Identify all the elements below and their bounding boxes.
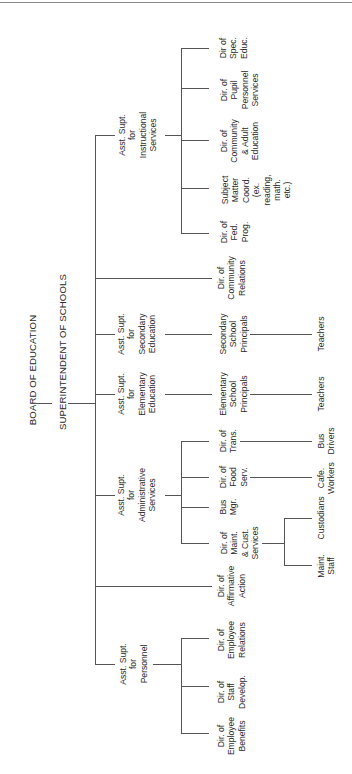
administrative-spine [181, 441, 182, 543]
label-line: Mgr. [228, 499, 238, 516]
label-line: Dir. of [216, 621, 226, 659]
label-line: Maint. [316, 554, 326, 577]
connector [165, 135, 181, 136]
maint-spine [284, 518, 285, 565]
connector [95, 495, 115, 496]
superintendent: SUPERINTENDENT OF SCHOOLS [58, 274, 68, 430]
label-line: Instructional [138, 112, 148, 158]
label-line: for [127, 468, 137, 522]
connector [181, 88, 209, 89]
label-line: math. [272, 174, 282, 205]
label-line: Teachers [316, 317, 326, 352]
connector [181, 140, 209, 141]
label-line: Personnel [240, 71, 250, 110]
connector [181, 233, 209, 234]
connector-superintendent-spine [68, 403, 95, 404]
connector [165, 334, 212, 335]
label-line: Personnel [139, 643, 149, 685]
label-line: Benefits [237, 717, 247, 755]
label-line: Dir. of [219, 119, 229, 162]
label-line: Secondary [218, 313, 228, 354]
subject-matter-coord: Subject Matter Coord. (ex. reading, math… [220, 174, 293, 205]
board-of-education: BOARD OF EDUCATION [28, 315, 38, 425]
connector [181, 48, 209, 49]
label-line: Dir. of [216, 566, 226, 606]
label-line: Dir. of [216, 717, 226, 755]
connector [240, 441, 312, 442]
label-line: for [128, 112, 138, 158]
label-line: Dir. of [218, 429, 228, 453]
label-line: Asst. Supt. [116, 468, 126, 522]
connector [250, 477, 312, 478]
label-line: Asst. Supt. [116, 372, 126, 415]
connector [95, 394, 115, 395]
label-line: Dir. of [219, 527, 229, 560]
label-line: Employee [227, 621, 237, 659]
label-line: Custodians [316, 497, 326, 540]
dir-community-adult-education: Dir. of Community & Adult Education [219, 119, 261, 162]
connector [165, 495, 181, 496]
label-line: for [127, 313, 137, 355]
label-line: Services [147, 468, 157, 522]
label-line: Staff [326, 554, 336, 577]
label-line: Community [227, 256, 237, 299]
label-line: Administrative [137, 468, 147, 522]
connector [95, 586, 212, 587]
label-line: Drivers [326, 427, 336, 454]
connector [284, 518, 312, 519]
asst-supt-secondary: Asst. Supt. for Secondary Education [116, 313, 158, 355]
board-label: BOARD OF EDUCATION [28, 315, 38, 425]
connector [181, 507, 209, 508]
label-line: Asst. Supt. [118, 643, 128, 685]
label-line: Principals [239, 313, 249, 354]
dir-food-serv: Dir. of Food Serv. [218, 466, 249, 488]
dir-affirmative-action: Dir. of Affirmative Action [216, 566, 247, 606]
label-line: Pupil [230, 71, 240, 110]
label-line: Relations [237, 256, 247, 299]
connector [95, 334, 115, 335]
connector [181, 441, 209, 442]
dir-trans: Dir. of Trans. [218, 429, 239, 453]
label-line: Principals [239, 372, 249, 415]
label-line: Trans. [228, 429, 238, 453]
label-line: Services [148, 112, 158, 158]
secondary-teachers: Teachers [316, 317, 326, 352]
label-line: & Cust. [240, 527, 250, 560]
label-line: Secondary [137, 313, 147, 355]
label-line: Relations [237, 621, 247, 659]
dir-employee-benefits: Dir. of Employee Benefits [216, 717, 247, 755]
label-line: etc.) [282, 174, 292, 205]
label-line: Food [229, 466, 239, 488]
label-line: Teachers [316, 377, 326, 412]
connector [181, 543, 209, 544]
cafe-workers: Cafe. Workers [316, 462, 337, 494]
label-line: reading, [261, 174, 271, 205]
label-line: Services [250, 71, 260, 110]
label-line: Coord. [240, 174, 250, 205]
label-line: Education [250, 119, 260, 162]
superintendent-label: SUPERINTENDENT OF SCHOOLS [58, 274, 68, 430]
connector [181, 686, 209, 687]
label-line: Fed. [230, 221, 240, 243]
label-line: Education [147, 313, 157, 355]
label-line: Prog. [240, 221, 250, 243]
connector [165, 394, 212, 395]
asst-supt-elementary: Asst. Supt. for Elementary Education [116, 372, 158, 415]
label-line: Dir. of [218, 466, 228, 488]
asst-supt-administrative: Asst. Supt. for Administrative Services [116, 468, 158, 522]
connector [250, 334, 312, 335]
label-line: Affirmative [227, 566, 237, 606]
label-line: & Adult [240, 119, 250, 162]
connector-board-superintendent [36, 403, 52, 404]
connector [181, 477, 209, 478]
label-line: (ex. [251, 174, 261, 205]
connector [181, 638, 209, 639]
secondary-school-principals: Secondary School Principals [218, 313, 249, 354]
label-line: Dir. of [216, 256, 226, 299]
asst-supt-personnel: Asst. Supt. for Personnel [118, 643, 149, 685]
elementary-school-principals: Elementary School Principals [218, 372, 249, 415]
label-line: Educ. [239, 37, 249, 59]
dir-spec-educ: Dir of Spec. Educ. [218, 37, 249, 59]
label-line: Bus [316, 427, 326, 454]
label-line: Subject [220, 174, 230, 205]
